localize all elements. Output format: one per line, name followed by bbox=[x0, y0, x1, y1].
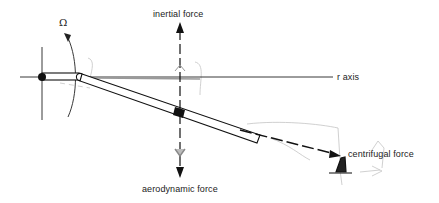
blade bbox=[80, 74, 260, 143]
inertial-force-label: inertial force bbox=[153, 10, 203, 19]
aerodynamic-force-arrow-icon bbox=[176, 167, 184, 178]
hub-segment bbox=[38, 73, 84, 81]
centrifugal-force-label: centrifugal force bbox=[348, 150, 414, 159]
r-axis-label: r axis bbox=[337, 73, 359, 82]
sketch-figure-icon bbox=[336, 157, 346, 172]
vertical-force-line bbox=[175, 22, 185, 178]
aerodynamic-force-label: aerodynamic force bbox=[142, 185, 218, 194]
inertial-force-arrow-icon bbox=[176, 22, 184, 33]
blade-force-diagram bbox=[0, 0, 439, 203]
omega-label: Ω bbox=[59, 18, 67, 28]
hub-icon bbox=[38, 73, 46, 81]
